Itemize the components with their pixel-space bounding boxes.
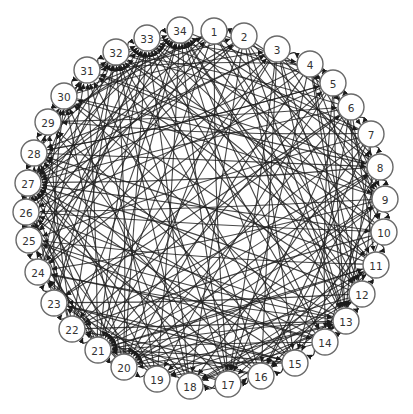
perimeter-arc-15-to-16 bbox=[274, 368, 283, 374]
node-33: 33 bbox=[134, 25, 160, 51]
node-label: 5 bbox=[330, 78, 337, 90]
node-label: 15 bbox=[288, 358, 301, 370]
node-label: 9 bbox=[382, 194, 389, 206]
node-8: 8 bbox=[367, 154, 393, 180]
node-19: 19 bbox=[144, 366, 170, 392]
perimeter-arc-7-to-8 bbox=[374, 147, 379, 154]
perimeter-arc-6-to-7 bbox=[359, 117, 365, 123]
node-label: 24 bbox=[31, 267, 45, 279]
node-15: 15 bbox=[282, 350, 308, 376]
node-20: 20 bbox=[111, 354, 137, 380]
node-28: 28 bbox=[21, 140, 47, 166]
node-label: 22 bbox=[65, 324, 78, 336]
node-label: 4 bbox=[307, 59, 314, 71]
node-6: 6 bbox=[338, 94, 364, 120]
node-31: 31 bbox=[74, 57, 100, 83]
node-label: 30 bbox=[57, 91, 70, 103]
perimeter-arc-32-to-33 bbox=[128, 41, 134, 46]
node-11: 11 bbox=[363, 252, 389, 278]
node-7: 7 bbox=[358, 121, 384, 147]
node-label: 14 bbox=[318, 337, 332, 349]
node-label: 25 bbox=[22, 235, 35, 247]
node-label: 26 bbox=[19, 207, 33, 219]
node-label: 27 bbox=[21, 178, 34, 190]
node-label: 12 bbox=[355, 289, 368, 301]
node-label: 17 bbox=[221, 379, 234, 391]
perimeter-arc-9-to-10 bbox=[384, 212, 388, 218]
node-18: 18 bbox=[177, 373, 203, 399]
node-27: 27 bbox=[15, 170, 41, 196]
node-label: 21 bbox=[91, 345, 104, 357]
node-2: 2 bbox=[231, 23, 257, 49]
node-label: 19 bbox=[150, 374, 163, 386]
node-5: 5 bbox=[320, 70, 346, 96]
node-label: 7 bbox=[368, 129, 375, 141]
node-23: 23 bbox=[41, 290, 67, 316]
node-12: 12 bbox=[349, 281, 375, 307]
node-24: 24 bbox=[25, 259, 51, 285]
node-label: 1 bbox=[211, 26, 218, 38]
node-label: 20 bbox=[117, 362, 130, 374]
node-26: 26 bbox=[13, 199, 39, 225]
node-label: 6 bbox=[348, 102, 355, 114]
node-label: 29 bbox=[41, 117, 54, 129]
node-3: 3 bbox=[264, 36, 290, 62]
perimeter-arc-23-to-24 bbox=[42, 284, 48, 291]
node-label: 34 bbox=[173, 25, 187, 37]
node-4: 4 bbox=[297, 51, 323, 77]
node-label: 18 bbox=[183, 381, 196, 393]
node-34: 34 bbox=[167, 17, 193, 43]
perimeter-arc-31-to-32 bbox=[98, 58, 104, 63]
node-32: 32 bbox=[103, 39, 129, 65]
node-label: 32 bbox=[109, 47, 122, 59]
node-13: 13 bbox=[333, 308, 359, 334]
perimeter-arc-14-to-15 bbox=[307, 350, 315, 357]
node-10: 10 bbox=[371, 219, 397, 245]
node-label: 8 bbox=[377, 162, 384, 174]
directed-graph-diagram: 1234567891011121314151617181920212223242… bbox=[0, 0, 413, 414]
node-label: 31 bbox=[80, 65, 93, 77]
perimeter-arc-30-to-31 bbox=[72, 80, 78, 86]
node-label: 2 bbox=[241, 31, 248, 43]
node-label: 23 bbox=[47, 298, 60, 310]
node-14: 14 bbox=[312, 329, 338, 355]
node-label: 11 bbox=[369, 260, 382, 272]
node-21: 21 bbox=[85, 337, 111, 363]
node-16: 16 bbox=[248, 363, 274, 389]
node-label: 10 bbox=[377, 227, 390, 239]
node-25: 25 bbox=[16, 227, 42, 253]
node-22: 22 bbox=[59, 316, 85, 342]
perimeter-arc-8-to-9 bbox=[382, 180, 386, 185]
node-label: 33 bbox=[140, 33, 153, 45]
node-label: 3 bbox=[274, 44, 281, 56]
node-29: 29 bbox=[35, 109, 61, 135]
node-1: 1 bbox=[201, 18, 227, 44]
edge-14-to-33 bbox=[154, 50, 318, 331]
node-17: 17 bbox=[215, 371, 241, 397]
node-9: 9 bbox=[372, 186, 398, 212]
perimeter-arc-24-to-25 bbox=[30, 254, 35, 260]
perimeter-arc-33-to-34 bbox=[160, 30, 167, 35]
node-label: 16 bbox=[254, 371, 268, 383]
perimeter-arc-3-to-4 bbox=[289, 53, 298, 59]
node-30: 30 bbox=[51, 83, 77, 109]
node-label: 13 bbox=[339, 316, 352, 328]
node-label: 28 bbox=[27, 148, 40, 160]
